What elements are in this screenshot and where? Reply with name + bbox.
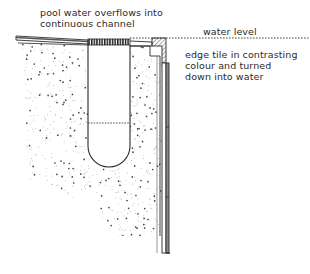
pool-wall-tiles [157,56,170,253]
deck-paving [16,36,88,45]
overflow-channel-label: pool water overflows into continuous cha… [40,7,163,29]
edge-tile [152,38,166,63]
channel-grating [88,39,130,45]
pool-edge-section-diagram [0,0,310,274]
concrete-mass [13,44,164,239]
edge-tile-label: edge tile in contrasting colour and turn… [185,49,298,82]
water-level-label: water level [203,26,257,37]
edge-coping [130,41,160,236]
overflow-channel [88,45,130,167]
